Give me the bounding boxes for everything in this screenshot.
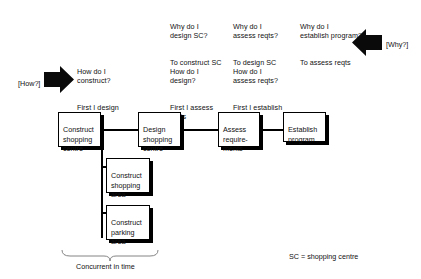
why-block-2-question: Why do I assess reqts? [233, 22, 295, 40]
why-block-1-question: Why do I design SC? [170, 22, 230, 40]
how-block-3-question: How do I assess reqts? [233, 67, 303, 85]
legend-sc-definition: SC = shopping centre [289, 252, 358, 261]
node-assess-requirements-label: Assess require- ments [223, 125, 248, 153]
why-block-3: Why do I establish program? To assess re… [300, 13, 380, 76]
diagram-canvas: Why do I design SC? To construct SC Why … [0, 0, 421, 279]
node-construct-shopping-area[interactable]: Construct shopping area [106, 158, 150, 193]
connector-node1-node2 [100, 129, 138, 131]
how-block-1-question: How do I construct? [77, 67, 137, 85]
how-arrow-right-icon [44, 66, 74, 93]
connector-node2-node3 [180, 129, 218, 131]
concurrent-in-time-label: Concurrent in time [76, 262, 135, 271]
node-establish-program[interactable]: Establish program [283, 112, 326, 142]
how-tag-label: [How?] [18, 79, 40, 88]
node-construct-shopping-centre[interactable]: Construct shopping centre [58, 112, 101, 147]
why-block-3-question: Why do I establish program? [300, 22, 380, 40]
connector-spine-vertical [101, 148, 103, 238]
connector-node3-node4 [259, 129, 283, 131]
how-block-2-question: How do I design? [170, 67, 232, 85]
node-establish-program-label: Establish program [288, 125, 317, 143]
node-construct-shopping-area-label: Construct shopping area [111, 171, 142, 199]
why-block-3-answer: To assess reqts [300, 58, 380, 67]
why-tag-label: [Why?] [386, 40, 408, 49]
node-design-shopping-centre[interactable]: Design shopping centre [138, 112, 181, 147]
connector-node1-spine [84, 148, 103, 150]
how-block-1-answer: First I design [77, 103, 137, 112]
node-assess-requirements[interactable]: Assess require- ments [218, 112, 260, 147]
concurrent-brace-icon [62, 250, 158, 261]
node-construct-parking-area-label: Construct parking area [111, 218, 142, 246]
node-design-shopping-centre-label: Design shopping centre [143, 125, 172, 153]
node-construct-parking-area[interactable]: Construct parking area [106, 205, 150, 240]
